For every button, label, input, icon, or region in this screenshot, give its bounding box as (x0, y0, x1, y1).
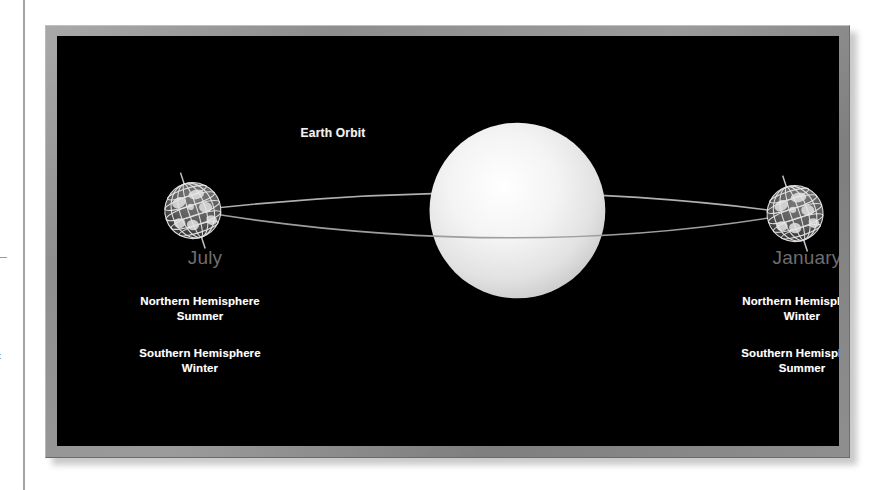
earth-orbit-label: Earth Orbit (253, 126, 413, 142)
month-label-july: July (119, 245, 291, 270)
earth-orbit-illustration (57, 36, 839, 446)
sun-sphere (430, 123, 606, 299)
month-label-january: January (721, 245, 839, 270)
clipped-margin-dash: — (0, 251, 8, 262)
january-southern-hemisphere-caption: Southern Hemisphere Summer (687, 346, 839, 376)
figure-panel: Earth Orbit July January Northern Hemisp… (57, 36, 839, 446)
earth-globe-july (154, 164, 232, 257)
clipped-margin-letter: t (0, 350, 8, 361)
january-northern-hemisphere-caption: Northern Hemisphere Winter (687, 294, 839, 324)
july-southern-hemisphere-caption: Southern Hemisphere Winter (85, 346, 315, 376)
figure-frame: Earth Orbit July January Northern Hemisp… (45, 25, 850, 458)
page-margin-rule (23, 0, 25, 490)
july-northern-hemisphere-caption: Northern Hemisphere Summer (85, 294, 315, 324)
